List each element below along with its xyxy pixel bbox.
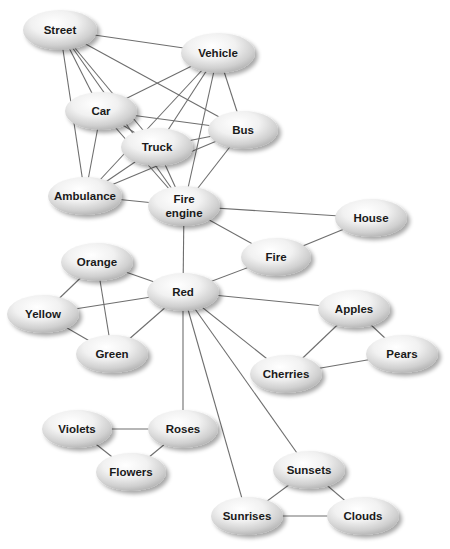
node-sunrises: Sunrises [211, 497, 283, 535]
node-label: Clouds [344, 510, 383, 522]
node-vehicle: Vehicle [181, 33, 255, 73]
node-label: Sunrises [223, 510, 272, 522]
node-label: Bus [232, 124, 254, 136]
node-label: House [353, 212, 388, 224]
node-label: Ambulance [54, 190, 116, 202]
node-label: Roses [166, 423, 201, 435]
node-label: Orange [77, 256, 117, 268]
node-clouds: Clouds [327, 497, 399, 535]
node-fire-engine: Fireengine [148, 186, 220, 226]
node-label: Cherries [263, 368, 310, 380]
node-pears: Pears [366, 335, 438, 373]
node-label: Red [172, 286, 194, 298]
node-red: Red [147, 273, 219, 311]
node-green: Green [76, 335, 148, 373]
node-cherries: Cherries [250, 355, 322, 393]
node-sunsets: Sunsets [273, 451, 345, 489]
node-label: Yellow [25, 308, 61, 320]
node-truck: Truck [121, 128, 193, 166]
node-fire: Fire [241, 238, 311, 276]
node-label: Apples [335, 303, 373, 315]
node-label: Sunsets [287, 464, 332, 476]
node-orange: Orange [61, 243, 133, 281]
node-label: Car [91, 105, 111, 117]
node-label: Truck [142, 141, 173, 153]
node-label: Fire [265, 251, 286, 263]
node-label: Flowers [109, 466, 152, 478]
node-car: Car [65, 92, 137, 130]
semantic-network-diagram: StreetVehicleCarBusTruckAmbulanceFireeng… [0, 0, 450, 549]
node-label: Vehicle [198, 47, 238, 59]
node-ambulance: Ambulance [48, 177, 122, 215]
node-violets: Violets [42, 410, 112, 448]
node-label: Pears [386, 348, 417, 360]
node-ellipse [148, 186, 220, 226]
node-apples: Apples [318, 290, 390, 328]
node-label: Violets [58, 423, 96, 435]
node-layer: StreetVehicleCarBusTruckAmbulanceFireeng… [7, 10, 438, 535]
node-flowers: Flowers [96, 453, 166, 491]
node-roses: Roses [148, 410, 218, 448]
edge-red-sunrises [183, 292, 247, 516]
node-label: Street [44, 24, 77, 36]
node-bus: Bus [208, 111, 278, 149]
node-yellow: Yellow [7, 295, 79, 333]
node-house: House [335, 199, 407, 237]
node-street: Street [23, 10, 97, 50]
node-label: Green [95, 348, 128, 360]
